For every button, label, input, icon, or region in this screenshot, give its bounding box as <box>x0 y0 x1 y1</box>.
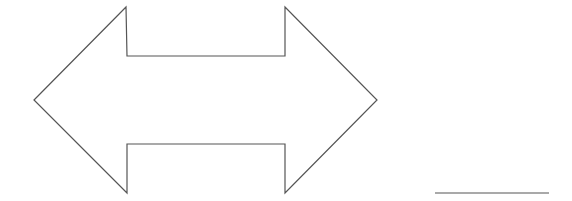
double-headed-arrow-icon <box>34 7 377 193</box>
diagram-canvas <box>0 0 572 201</box>
